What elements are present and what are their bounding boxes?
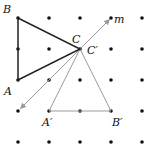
grid-dot (109, 78, 113, 82)
grid-dot (140, 16, 144, 20)
grid-dot (16, 140, 20, 144)
grid-dot (78, 16, 82, 20)
label-C: C (72, 33, 81, 46)
label-B-prime: B′ (111, 116, 123, 129)
grid-dot (47, 47, 51, 51)
grid-dot (78, 140, 82, 144)
label-B: B (2, 3, 11, 16)
grid-dot (47, 140, 51, 144)
label-A-prime: A′ (41, 116, 53, 129)
grid-dot (140, 140, 144, 144)
reflection-diagram: B A C C′ A′ B′ m (0, 0, 152, 157)
line-m (20, 19, 110, 109)
label-A: A (3, 85, 12, 98)
grid-dot (16, 109, 20, 113)
grid-dot (109, 47, 113, 51)
grid-dot (140, 78, 144, 82)
grid-dot (140, 47, 144, 51)
grid-dot (78, 78, 82, 82)
label-m: m (114, 13, 124, 26)
diagram-svg: B A C C′ A′ B′ m (0, 0, 152, 157)
grid-dot (140, 109, 144, 113)
grid-dot (47, 16, 51, 20)
grid-dot (109, 140, 113, 144)
label-C-prime: C′ (87, 44, 98, 57)
